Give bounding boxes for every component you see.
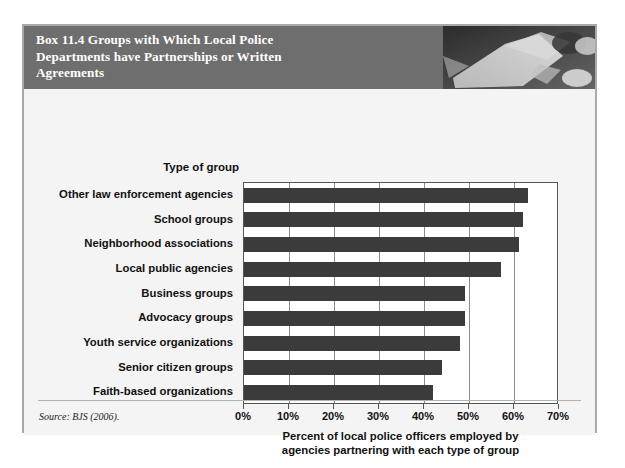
tick-label: 0%	[235, 410, 251, 422]
category-label: School groups	[24, 207, 238, 232]
tick-label: 30%	[367, 410, 389, 422]
bar	[244, 311, 465, 326]
tick-mark	[423, 404, 424, 409]
bar	[244, 360, 442, 375]
category-label: Neighborhood associations	[24, 231, 238, 256]
category-label: Local public agencies	[24, 256, 238, 281]
bar	[244, 237, 519, 252]
tick-mark	[558, 404, 559, 409]
tick-mark	[513, 404, 514, 409]
tick-label: 20%	[322, 410, 344, 422]
category-label: Other law enforcement agencies	[24, 182, 238, 207]
bar	[244, 188, 528, 203]
tick-label: 40%	[412, 410, 434, 422]
x-axis-ticks: 0%10%20%30%40%50%60%70%	[243, 404, 558, 410]
source-note: Source: BJS (2006).	[39, 411, 119, 422]
category-label: Advocacy groups	[24, 305, 238, 330]
tick-label: 60%	[502, 410, 524, 422]
tick-label: 70%	[547, 410, 569, 422]
category-label: Senior citizen groups	[24, 355, 238, 380]
box-header: Box 11.4 Groups with Which Local Police …	[24, 26, 595, 89]
bar	[244, 286, 465, 301]
tick-mark	[378, 404, 379, 409]
source-divider	[38, 400, 581, 401]
bar	[244, 385, 433, 400]
bar-row	[244, 232, 559, 257]
box-frame: Box 11.4 Groups with Which Local Police …	[22, 24, 597, 433]
bar	[244, 212, 523, 227]
figure-root: Box 11.4 Groups with Which Local Police …	[0, 0, 625, 468]
police-photo	[440, 26, 595, 89]
tick-label: 10%	[277, 410, 299, 422]
y-axis-title: Type of group	[24, 161, 239, 173]
bar-row	[244, 183, 559, 208]
tick-mark	[243, 404, 244, 409]
tick-label: 50%	[457, 410, 479, 422]
chart-body: Type of group Other law enforcement agen…	[24, 89, 595, 435]
bar-row	[244, 208, 559, 233]
tick-mark	[468, 404, 469, 409]
bar-row	[244, 306, 559, 331]
tick-mark	[333, 404, 334, 409]
bar-row	[244, 331, 559, 356]
tick-mark	[288, 404, 289, 409]
bar-series	[244, 183, 557, 403]
category-labels: Other law enforcement agencies School gr…	[24, 182, 238, 404]
bar	[244, 336, 460, 351]
category-label: Business groups	[24, 281, 238, 306]
bar-row	[244, 356, 559, 381]
box-title: Box 11.4 Groups with Which Local Police …	[24, 26, 440, 89]
category-label: Youth service organizations	[24, 330, 238, 355]
bar	[244, 262, 501, 277]
bar-row	[244, 257, 559, 282]
plot-area	[243, 182, 558, 404]
bar-row	[244, 282, 559, 307]
x-axis-title: Percent of local police officers employe…	[243, 429, 558, 457]
bar-row	[244, 380, 559, 405]
